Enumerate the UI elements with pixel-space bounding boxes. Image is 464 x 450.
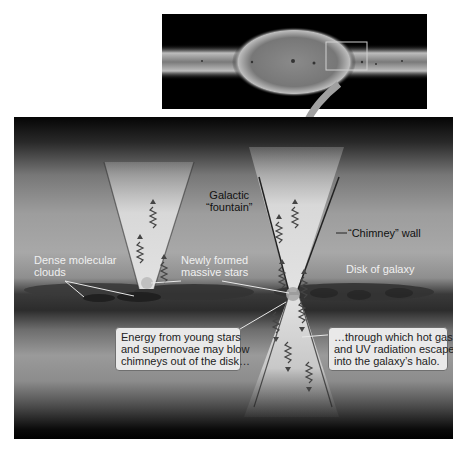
label-text: clouds: [34, 266, 117, 278]
callout-energy-young-stars: Energy from young stars and supernovae m…: [115, 327, 241, 371]
callout-line: Energy from young stars: [121, 331, 235, 343]
label-disk-of-galaxy: Disk of galaxy: [346, 263, 414, 275]
callout-line: chimneys out of the disk…: [121, 355, 235, 367]
callout-line: and supernovae may blow: [121, 343, 235, 355]
galaxy-overview-image: [162, 14, 427, 109]
callout-hot-gas-escape: …through which hot gas and UV radiation …: [328, 327, 448, 371]
label-text: Galactic: [206, 189, 252, 201]
molecular-cloud: [83, 294, 115, 302]
label-text: massive stars: [181, 266, 248, 278]
chimney-lower-cone: [244, 295, 339, 417]
star-cluster: [286, 287, 300, 301]
chimney-diagram-panel: Galactic “fountain” “Chimney” wall Dense…: [14, 117, 453, 439]
label-newly-formed-stars: Newly formed massive stars: [181, 254, 248, 278]
callout-line: and UV radiation escape: [334, 343, 442, 355]
label-chimney-wall: “Chimney” wall: [348, 227, 421, 239]
label-dense-molecular-clouds: Dense molecular clouds: [34, 254, 117, 278]
label-text: Dense molecular: [34, 254, 117, 266]
callout-line: …through which hot gas: [334, 331, 442, 343]
label-galactic-fountain: Galactic “fountain”: [206, 189, 252, 213]
label-text: “fountain”: [206, 201, 252, 213]
label-text: Newly formed: [181, 254, 248, 266]
callout-line: into the galaxy’s halo.: [334, 355, 442, 367]
